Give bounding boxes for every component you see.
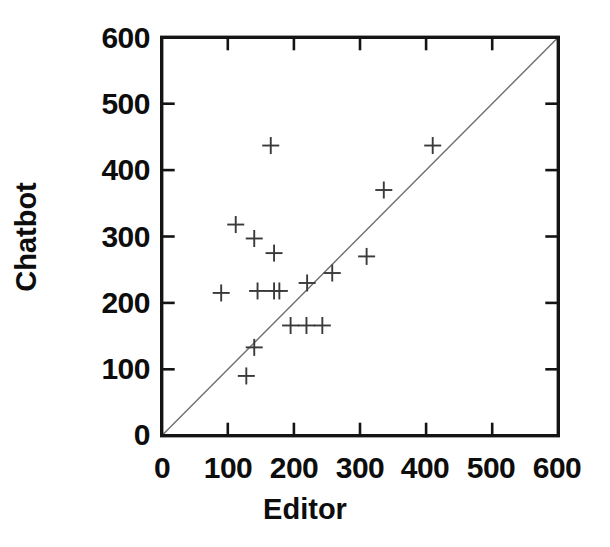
x-tick-label-100: 100 bbox=[204, 453, 253, 483]
data-point-markers-group bbox=[213, 137, 442, 384]
data-point-marker bbox=[358, 248, 375, 265]
y-tick-label-400: 400 bbox=[60, 155, 150, 185]
data-point-marker bbox=[266, 245, 283, 262]
x-tick-label-300: 300 bbox=[336, 453, 385, 483]
y-tick-label-100: 100 bbox=[60, 354, 150, 384]
data-point-marker bbox=[246, 339, 263, 356]
identity-reference-line bbox=[162, 37, 559, 435]
data-point-marker bbox=[249, 282, 266, 299]
data-point-marker bbox=[424, 137, 441, 154]
x-tick-label-0: 0 bbox=[154, 453, 170, 483]
y-tick-label-500: 500 bbox=[60, 89, 150, 119]
y-tick-label-300: 300 bbox=[60, 222, 150, 252]
data-point-marker bbox=[282, 317, 299, 334]
y-tick-label-200: 200 bbox=[60, 288, 150, 318]
data-point-marker bbox=[324, 265, 341, 282]
data-point-marker bbox=[299, 274, 316, 291]
data-point-marker bbox=[298, 317, 315, 334]
y-axis-title: Chatbot bbox=[12, 182, 41, 292]
data-point-marker bbox=[238, 367, 255, 384]
x-tick-label-600: 600 bbox=[533, 453, 582, 483]
y-tick-label-600: 600 bbox=[60, 23, 150, 53]
x-axis-title: Editor bbox=[263, 495, 347, 524]
data-point-marker bbox=[246, 230, 263, 247]
x-tick-label-500: 500 bbox=[467, 453, 516, 483]
data-point-marker bbox=[314, 317, 331, 334]
y-tick-label-0: 0 bbox=[60, 420, 150, 450]
data-point-marker bbox=[213, 284, 230, 301]
x-tick-label-400: 400 bbox=[401, 453, 450, 483]
x-tick-label-200: 200 bbox=[270, 453, 319, 483]
data-point-marker bbox=[262, 137, 279, 154]
scatter-plot-figure: 600 500 400 300 200 100 0 0 100 200 300 … bbox=[0, 0, 610, 547]
data-point-marker bbox=[227, 216, 244, 233]
data-point-marker bbox=[375, 182, 392, 199]
